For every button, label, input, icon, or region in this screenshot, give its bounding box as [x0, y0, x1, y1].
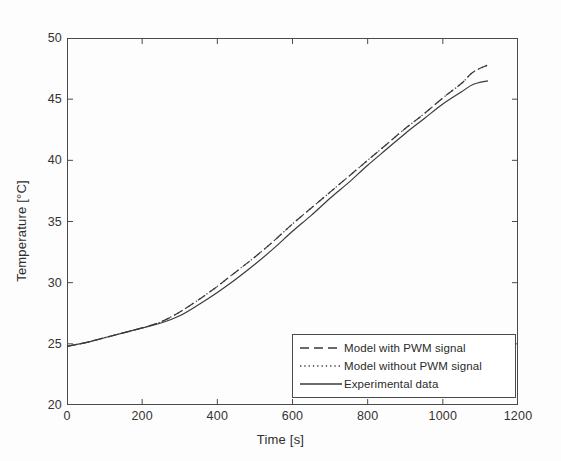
x-tick-label: 400 [207, 410, 228, 422]
x-tick-label: 1000 [429, 410, 458, 422]
x-tick-label: 600 [282, 410, 303, 422]
y-tick-label: 50 [28, 32, 62, 44]
x-tick-label: 800 [357, 410, 378, 422]
legend-entry: Experimental data [298, 375, 509, 393]
y-axis-title: Temperature [°C] [14, 180, 29, 282]
series-line-2 [67, 65, 488, 346]
legend-entry: Model without PWM signal [298, 357, 509, 375]
chart-figure: 20253035404550 020040060080010001200 Tim… [0, 0, 561, 461]
legend-line-sample-dashed [298, 341, 344, 355]
series-line-3 [67, 81, 488, 346]
y-axis-title-wrap: Temperature [°C] [10, 0, 32, 461]
legend-label: Experimental data [344, 378, 438, 390]
x-tick-label: 200 [131, 410, 152, 422]
y-tick-label: 25 [28, 338, 62, 350]
series-line-1 [67, 65, 488, 346]
y-tick-label: 35 [28, 216, 62, 228]
data-series-group [67, 65, 488, 346]
legend-label: Model with PWM signal [344, 342, 466, 354]
legend-line-sample-dotted [298, 359, 344, 373]
x-axis-tick-labels: 020040060080010001200 [0, 410, 561, 430]
y-tick-label: 45 [28, 93, 62, 105]
x-tick-label: 1200 [504, 410, 533, 422]
legend-entry: Model with PWM signal [298, 339, 509, 357]
x-tick-label: 0 [63, 410, 70, 422]
y-tick-label: 30 [28, 277, 62, 289]
legend-line-sample-solid [298, 377, 344, 391]
chart-legend: Model with PWM signalModel without PWM s… [292, 334, 516, 398]
legend-label: Model without PWM signal [344, 360, 482, 372]
y-tick-label: 40 [28, 154, 62, 166]
x-axis-title: Time [s] [0, 432, 561, 447]
